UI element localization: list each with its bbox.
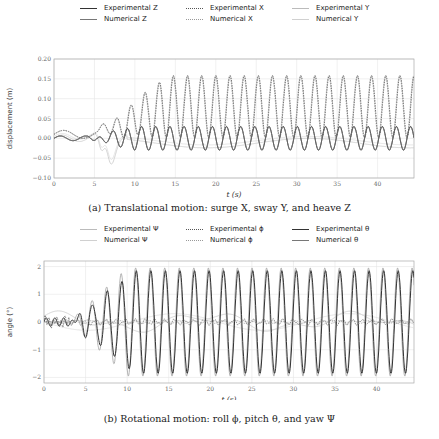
caption-rotational: (b) Rotational motion: roll ϕ, pitch θ, … — [0, 413, 439, 424]
x-tick-label: 10 — [123, 385, 131, 392]
y-tick-label: 1 — [37, 290, 41, 297]
x-tick-label: 40 — [373, 385, 381, 392]
y-tick-label: −2 — [32, 373, 41, 380]
x-axis-label: t (s) — [221, 395, 236, 400]
figure-rotational: Experimental Ψ Experimental ϕ Experiment… — [0, 0, 439, 439]
y-axis-label: angle (°) — [6, 306, 14, 337]
x-tick-label: 5 — [84, 385, 88, 392]
x-tick-label: 25 — [248, 385, 256, 392]
x-tick-label: 30 — [290, 385, 298, 392]
x-tick-label: 15 — [165, 385, 173, 392]
y-tick-label: −1 — [32, 346, 41, 353]
y-tick-label: 0 — [37, 318, 41, 325]
x-tick-label: 35 — [331, 385, 339, 392]
x-tick-label: 20 — [206, 385, 214, 392]
x-tick-label: 0 — [42, 385, 46, 392]
plot-rotational: 0510152025303540−2−1012t (s)angle (°) — [0, 0, 439, 400]
y-tick-label: 2 — [37, 263, 41, 270]
